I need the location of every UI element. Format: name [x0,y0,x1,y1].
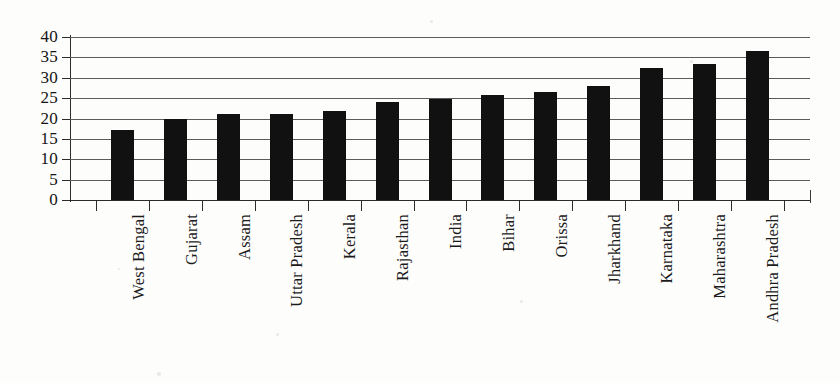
x-label-west-bengal: West Bengal [131,214,148,300]
scan-artifact [520,300,523,303]
x-tick [361,200,362,211]
bar-chart: 0510152025303540 West BengalGujaratAssam… [0,0,840,383]
bar [376,102,399,200]
x-label-jharkhand: Jharkhand [607,214,624,284]
x-label-assam: Assam [237,214,254,260]
scan-artifact [276,333,279,336]
x-tick [414,200,415,211]
x-label-kerala: Kerala [342,214,359,259]
x-label-orissa: Orissa [554,214,571,257]
x-tick [731,200,732,211]
x-tick [308,200,309,211]
x-tick [625,200,626,211]
bar [640,68,663,200]
bar [746,51,769,200]
bar [111,130,134,200]
right-frame-line [810,190,811,203]
y-tick-label-40: 40 [16,28,58,45]
y-axis-tick-labels: 0510152025303540 [14,0,58,383]
bar [587,86,610,200]
scan-artifact [157,372,161,376]
x-tick [519,200,520,211]
bar [534,92,557,200]
gridline-0 [70,200,810,201]
x-tick [255,200,256,211]
bar [429,99,452,200]
x-label-andhra-pradesh: Andhra Pradesh [765,214,782,323]
scan-artifact [690,60,693,63]
plot-area [70,37,810,200]
y-tick-label-0: 0 [16,191,58,208]
bar [270,114,293,200]
x-tick [784,200,785,211]
x-tick [466,200,467,211]
x-tick [149,200,150,211]
y-tick-label-30: 30 [16,69,58,86]
y-tick-label-15: 15 [16,130,58,147]
x-tick [202,200,203,211]
bar [217,114,240,200]
y-tick-label-5: 5 [16,171,58,188]
y-tick-label-10: 10 [16,150,58,167]
x-label-bihar: Bihar [501,214,518,252]
x-label-rajasthan: Rajasthan [395,214,412,281]
scan-artifact [430,20,433,23]
bar [164,119,187,200]
bar [693,64,716,200]
bar [323,111,346,200]
x-label-uttar-pradesh: Uttar Pradesh [289,214,306,307]
scanned-page-background: 0510152025303540 West BengalGujaratAssam… [0,0,840,383]
x-tick [678,200,679,211]
x-tick [96,200,97,211]
y-tick-label-25: 25 [16,89,58,106]
x-label-gujarat: Gujarat [184,214,201,265]
scan-artifact [118,268,120,270]
bar [481,95,504,200]
x-label-india: India [448,214,465,249]
x-label-maharashtra: Maharashtra [712,214,729,299]
x-tick [572,200,573,211]
y-tick-label-20: 20 [16,110,58,127]
y-tick-label-35: 35 [16,48,58,65]
x-label-karnataka: Karnataka [659,214,676,284]
